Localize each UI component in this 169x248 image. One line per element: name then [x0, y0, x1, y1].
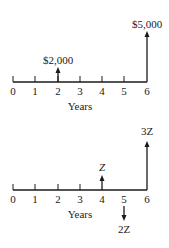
- tick-label: 6: [144, 85, 150, 97]
- bottom-axis-ticks: [13, 184, 80, 190]
- bottom-axis-label: Years: [68, 208, 93, 220]
- bottom-tick-labels: 0 1 2 3 4 5 6: [10, 193, 150, 205]
- flow-label-year-4: Z: [99, 161, 106, 173]
- tick-label: 0: [10, 85, 16, 97]
- bottom-cash-flow-diagram: 0 1 2 3 4 5 6 Years Z 2Z 3Z: [10, 125, 153, 235]
- flow-label-year-6: $5,000: [132, 18, 163, 30]
- up-arrow-icon: [145, 141, 150, 190]
- tick-label: 5: [121, 193, 127, 205]
- tick-label: 4: [99, 85, 105, 97]
- tick-label: 4: [99, 193, 105, 205]
- cash-flow-diagrams: 0 1 2 3 4 5 6 Years $2,000 $5,000: [0, 0, 169, 248]
- up-arrow-icon: [145, 31, 150, 82]
- top-axis-ticks: [13, 76, 124, 82]
- flow-label-year-2: $2,000: [43, 54, 74, 66]
- tick-label: 1: [32, 193, 38, 205]
- tick-label: 2: [55, 193, 61, 205]
- top-axis-label: Years: [68, 100, 93, 112]
- flow-label-year-6: 3Z: [141, 125, 154, 137]
- top-tick-labels: 0 1 2 3 4 5 6: [10, 85, 150, 97]
- up-arrow-icon: [56, 67, 61, 82]
- tick-label: 1: [32, 85, 38, 97]
- down-arrow-icon: [122, 206, 127, 221]
- tick-label: 0: [10, 193, 16, 205]
- tick-label: 2: [55, 85, 61, 97]
- up-arrow-icon: [100, 175, 105, 190]
- flow-label-year-5: 2Z: [118, 223, 131, 235]
- tick-label: 3: [77, 85, 83, 97]
- tick-label: 3: [77, 193, 83, 205]
- tick-label: 6: [144, 193, 150, 205]
- top-cash-flow-diagram: 0 1 2 3 4 5 6 Years $2,000 $5,000: [10, 18, 162, 112]
- tick-label: 5: [121, 85, 127, 97]
